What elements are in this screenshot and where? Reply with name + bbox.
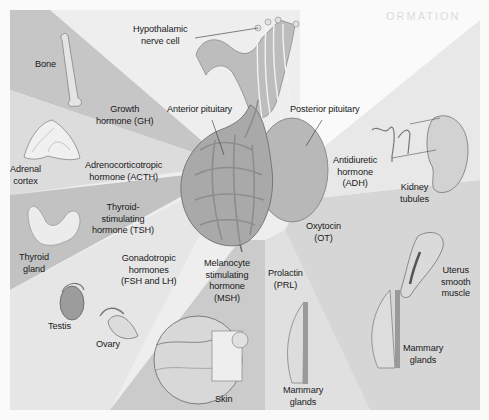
label-uterus-smooth-muscle: Uterus smooth muscle [441,265,471,300]
label-hypothalamic-nerve-cell: Hypothalamic nerve cell [133,24,187,47]
label-tsh: Thyroid- stimulating hormone (TSH) [92,202,154,237]
label-anterior-pituitary: Anterior pituitary [167,104,232,116]
pituitary-hormone-diagram: ORMATION Hypothalamic nerve cell Anterio… [0,0,489,420]
label-kidney-tubules: Kidney tubules [400,182,429,205]
label-adrenal-cortex: Adrenal cortex [10,164,41,187]
label-posterior-pituitary: Posterior pituitary [290,104,360,116]
label-msh: Melanocyte stimulating hormone (MSH) [204,258,250,304]
label-testis: Testis [48,321,71,333]
label-oxytocin: Oxytocin (OT) [306,221,341,244]
label-mammary-glands-ot: Mammary glands [403,343,443,366]
label-acth: Adrenocorticotropic hormone (ACTH) [85,160,162,183]
label-ovary: Ovary [96,339,120,351]
label-bone: Bone [35,59,56,71]
label-growth-hormone: Growth hormone (GH) [96,104,154,127]
label-prolactin: Prolactin (PRL) [268,268,303,291]
label-thyroid-gland: Thyroid gland [19,252,49,275]
background-title-fragment: ORMATION [386,10,460,22]
label-mammary-glands-prl: Mammary glands [283,385,323,408]
label-gonadotropic-hormones: Gonadotropic hormones (FSH and LH) [121,253,176,288]
label-adh: Antidiuretic hormone (ADH) [333,155,377,190]
label-skin: Skin [215,394,232,406]
